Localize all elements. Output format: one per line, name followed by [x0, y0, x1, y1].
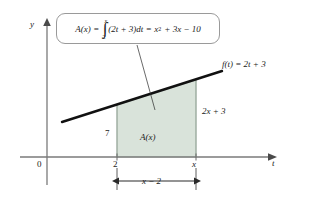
tick-label-lower-bound: 2: [113, 160, 118, 169]
formula-differential: dt: [136, 24, 143, 34]
formula-result-rest: + 3x − 10: [164, 24, 200, 34]
formula-result-exponent: 2: [158, 26, 161, 32]
t-axis-label: t: [272, 159, 275, 168]
integral-limits: x 2: [105, 21, 108, 38]
dimension-arrowhead-left: [112, 178, 119, 185]
width-dimension-label: x − 2: [142, 177, 161, 186]
formula-integrand: (2t + 3): [108, 24, 136, 34]
integral-lower-limit: 2: [103, 34, 108, 40]
y-axis-label: y: [30, 20, 34, 29]
formula-equals: =: [94, 24, 99, 34]
y-axis-arrowhead: [43, 18, 51, 26]
area-region-label: A(x): [140, 133, 156, 142]
formula-function-name: A(x): [75, 24, 91, 34]
origin-label: 0: [37, 160, 42, 169]
formula-equals-2: =: [146, 24, 151, 34]
integral-expression: ∫ x 2: [103, 21, 107, 38]
dimension-arrowhead-right: [194, 178, 201, 185]
right-ordinate-label: 2x + 3: [202, 107, 226, 116]
integral-formula: A(x) = ∫ x 2 (2t + 3) dt = x2 + 3x − 10: [62, 19, 214, 39]
function-label: f(t) = 2t + 3: [222, 60, 266, 69]
tick-label-upper-bound: x: [192, 160, 196, 169]
left-ordinate-label: 7: [105, 129, 110, 138]
integral-upper-limit: x: [105, 18, 108, 24]
